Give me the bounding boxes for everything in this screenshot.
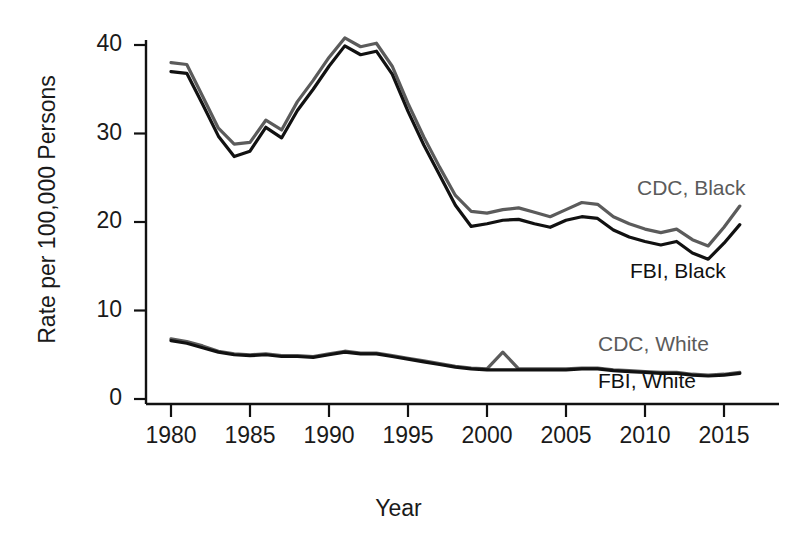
series-line-fbi-black — [171, 46, 740, 259]
x-axis-title: Year — [0, 495, 797, 522]
series-annotation-fbi-white: FBI, White — [598, 369, 696, 393]
series-paths — [171, 38, 740, 376]
x-tick-label: 2005 — [526, 422, 606, 449]
y-axis-ticks — [134, 45, 146, 399]
series-annotation-cdc-black: CDC, Black — [637, 176, 746, 200]
y-tick-label: 20 — [62, 207, 122, 234]
x-tick-label: 2015 — [684, 422, 764, 449]
axis-lines — [134, 40, 779, 417]
chart-figure: Rate per 100,000 Persons Year 403020100 … — [0, 0, 797, 560]
y-axis-title: Rate per 100,000 Persons — [34, 45, 61, 375]
y-tick-label: 30 — [62, 119, 122, 146]
series-annotation-fbi-black: FBI, Black — [630, 259, 726, 283]
y-tick-label: 40 — [62, 30, 122, 57]
series-annotation-cdc-white: CDC, White — [598, 332, 709, 356]
x-tick-label: 1990 — [289, 422, 369, 449]
y-tick-label: 0 — [62, 384, 122, 411]
x-tick-label: 1985 — [210, 422, 290, 449]
x-axis-ticks — [171, 404, 724, 417]
x-tick-label: 2000 — [447, 422, 527, 449]
x-tick-label: 1995 — [368, 422, 448, 449]
x-tick-label: 1980 — [131, 422, 211, 449]
y-tick-label: 10 — [62, 296, 122, 323]
x-tick-label: 2010 — [605, 422, 685, 449]
